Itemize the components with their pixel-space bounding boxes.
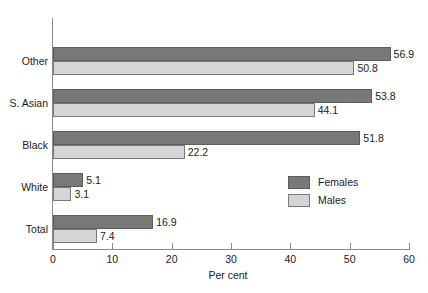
legend-swatch-males [288, 194, 310, 207]
x-tick-50 [350, 243, 351, 249]
bar-males-s-asian [53, 103, 315, 117]
x-axis-title: Per cent [0, 269, 428, 281]
bar-value-males-white: 3.1 [74, 187, 89, 201]
x-tick-0 [53, 243, 54, 249]
legend-swatch-females [288, 176, 310, 189]
bar-chart: 0102030405060 OtherS. AsianBlackWhiteTot… [0, 0, 428, 293]
category-label-total: Total [0, 223, 48, 235]
bar-females-white [53, 173, 83, 187]
x-tick-label-50: 50 [330, 253, 370, 266]
bar-value-males-total: 7.4 [100, 229, 115, 243]
bar-females-other [53, 47, 391, 61]
legend-label-males: Males [318, 194, 346, 207]
x-tick-label-20: 20 [152, 253, 192, 266]
x-tick-label-40: 40 [270, 253, 310, 266]
x-tick-label-0: 0 [33, 253, 73, 266]
x-tick-label-10: 10 [92, 253, 132, 266]
category-label-s-asian: S. Asian [0, 97, 48, 109]
bar-value-females-s-asian: 53.8 [375, 89, 395, 103]
bar-value-females-white: 5.1 [86, 173, 101, 187]
bar-value-females-black: 51.8 [363, 131, 383, 145]
bar-males-other [53, 61, 354, 75]
x-tick-60 [409, 243, 410, 249]
x-tick-10 [112, 243, 113, 249]
x-tick-label-60: 60 [389, 253, 428, 266]
x-tick-30 [231, 243, 232, 249]
bar-males-white [53, 187, 71, 201]
x-axis-title-text: Per cent [208, 269, 247, 281]
category-label-white: White [0, 181, 48, 193]
chart-legend: FemalesMales [288, 174, 358, 210]
bar-value-males-s-asian: 44.1 [318, 103, 338, 117]
legend-item-males: Males [288, 192, 358, 209]
bar-value-males-black: 22.2 [188, 145, 208, 159]
bar-males-black [53, 145, 185, 159]
bar-females-total [53, 215, 153, 229]
category-label-other: Other [0, 55, 48, 67]
legend-label-females: Females [318, 176, 358, 189]
bar-value-males-other: 50.8 [357, 61, 377, 75]
bar-males-total [53, 229, 97, 243]
bar-females-s-asian [53, 89, 372, 103]
bar-females-black [53, 131, 360, 145]
category-label-black: Black [0, 139, 48, 151]
bar-value-females-total: 16.9 [156, 215, 176, 229]
bar-value-females-other: 56.9 [394, 47, 414, 61]
legend-item-females: Females [288, 174, 358, 191]
x-tick-40 [290, 243, 291, 249]
x-tick-label-30: 30 [211, 253, 251, 266]
x-axis-line [52, 249, 410, 250]
x-tick-20 [172, 243, 173, 249]
